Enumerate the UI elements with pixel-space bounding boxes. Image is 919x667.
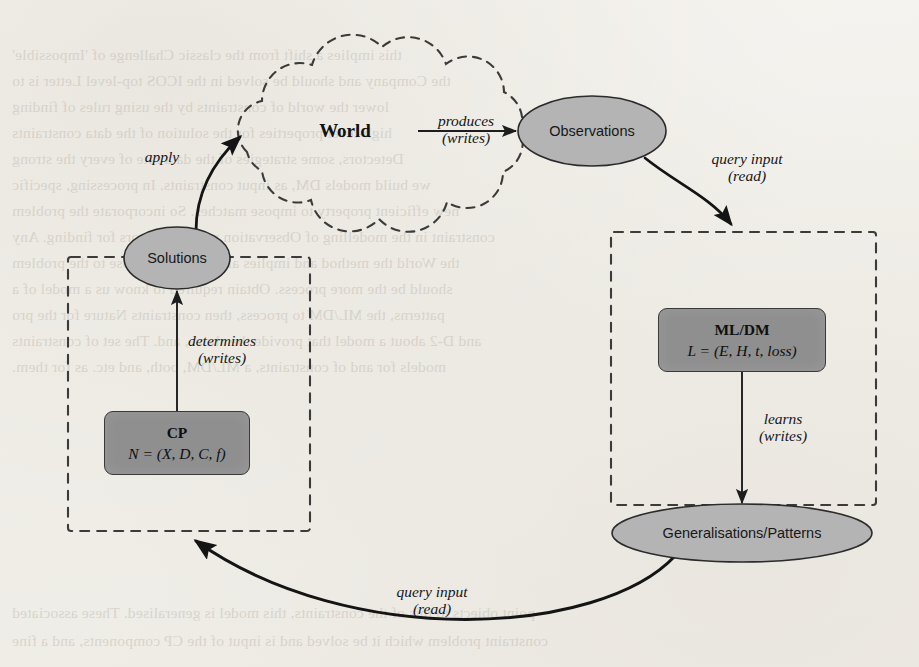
cp-box-title: CP <box>167 424 188 442</box>
solutions-ellipse <box>124 227 230 289</box>
observations-ellipse <box>518 96 666 166</box>
cp-node-box: CP N = (X, D, C, f) <box>104 411 250 475</box>
left-dashed-container <box>68 257 310 531</box>
edge-generalisations-cpbox <box>196 541 675 619</box>
mldm-box-title: ML/DM <box>714 321 769 339</box>
mldm-node-box: ML/DM L = (E, H, t, loss) <box>658 308 826 372</box>
cp-box-formula: N = (X, D, C, f) <box>128 445 225 463</box>
edge-observations-mlbox <box>645 158 731 224</box>
world-cloud-shape <box>238 35 523 232</box>
mldm-box-formula: L = (E, H, t, loss) <box>687 342 796 360</box>
figure-canvas: this implies a shift from the classic Ch… <box>0 0 919 667</box>
generalisations-ellipse <box>612 504 872 562</box>
edge-solutions-world <box>196 137 240 231</box>
